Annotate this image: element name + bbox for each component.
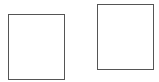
right-rectangle [97, 4, 154, 70]
left-rectangle [8, 14, 65, 80]
